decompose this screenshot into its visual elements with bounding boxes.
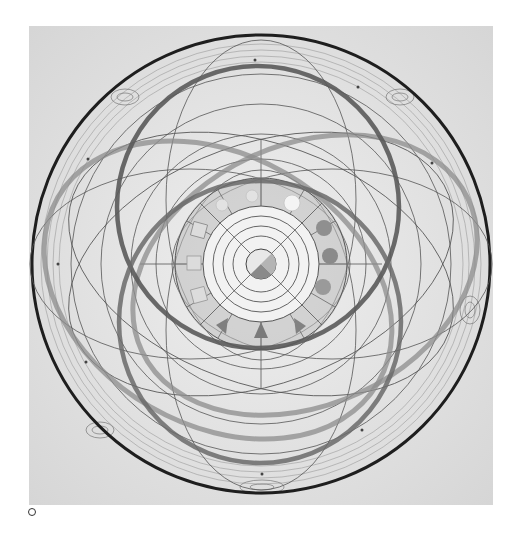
page-marker	[28, 508, 36, 516]
filled-circle-icon	[315, 279, 331, 295]
square-icon	[190, 221, 207, 238]
square-icon	[187, 256, 201, 270]
filled-circle-icon	[322, 248, 338, 264]
cosmological-diagram	[29, 26, 493, 505]
light-circle-icon	[284, 195, 300, 211]
light-shape-icon	[216, 199, 228, 211]
diagram-plate	[29, 26, 493, 505]
square-icon	[190, 286, 207, 303]
filled-circle-icon	[316, 220, 332, 236]
light-shape-icon	[246, 190, 258, 202]
core	[175, 178, 347, 350]
